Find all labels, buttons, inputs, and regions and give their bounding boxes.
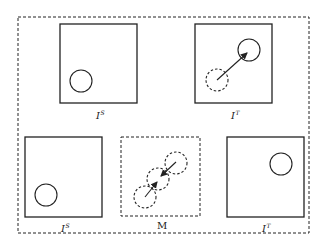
panel-frame: [25, 137, 102, 217]
panel-label: IS: [95, 109, 105, 121]
panel-motion: M: [121, 137, 200, 231]
panel-top-source: IS: [60, 24, 137, 121]
previous-position-circle-icon: [165, 152, 187, 174]
panels-layer: ISITISMIT: [25, 24, 304, 234]
panel-label: IT: [230, 109, 240, 121]
panel-frame: [195, 24, 272, 103]
panel-bottom-target: IT: [227, 137, 304, 234]
diagram-canvas: ISITISMIT: [0, 0, 324, 249]
panel-top-target: IT: [195, 24, 272, 121]
panel-frame: [60, 24, 137, 103]
panel-frame: [227, 137, 304, 217]
panel-label: M: [157, 220, 167, 231]
object-circle-icon: [270, 153, 292, 175]
object-circle-icon: [35, 184, 57, 206]
panel-label: IT: [261, 222, 271, 234]
outer-dashed-frame: [18, 17, 309, 233]
panel-frame: [121, 137, 200, 216]
motion-arrow-icon: [217, 53, 247, 80]
object-circle-icon: [70, 70, 92, 92]
panel-bottom-source: IS: [25, 137, 102, 234]
panel-label: IS: [60, 222, 70, 234]
